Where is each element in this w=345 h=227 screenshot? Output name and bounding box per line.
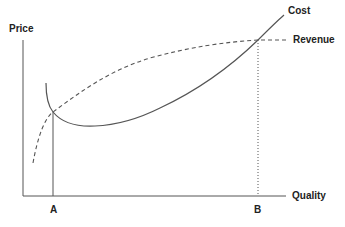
tick-label-a: A xyxy=(50,204,57,215)
tick-label-b: B xyxy=(254,204,261,215)
revenue-label: Revenue xyxy=(293,34,335,45)
x-axis-label: Quality xyxy=(292,190,326,201)
cost-curve xyxy=(46,15,284,126)
y-axis-label: Price xyxy=(9,23,33,34)
cost-label: Cost xyxy=(288,5,310,16)
revenue-curve xyxy=(33,40,286,163)
